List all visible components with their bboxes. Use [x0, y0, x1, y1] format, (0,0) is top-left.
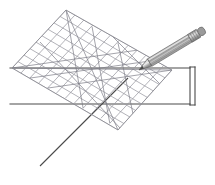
figure-background	[0, 0, 215, 185]
drawing-canvas	[0, 0, 215, 185]
technical-drawing-figure	[0, 0, 215, 185]
